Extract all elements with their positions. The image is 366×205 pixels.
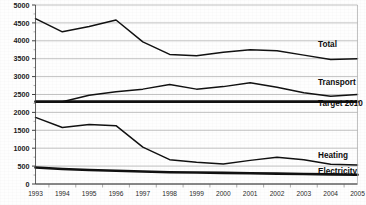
xtick-label-1998: 1998 (162, 190, 177, 197)
xtick-marks-group (49, 184, 344, 188)
xtick-label-2004: 2004 (323, 190, 338, 197)
xtick-label-2003: 2003 (296, 190, 311, 197)
xtick-label-2002: 2002 (270, 190, 285, 197)
xtick-labels-group: 1993199419951996199719981999200020012002… (28, 190, 365, 197)
xtick-label-2005: 2005 (350, 190, 365, 197)
xtick-label-1996: 1996 (109, 190, 124, 197)
ytick-label-500: 500 (18, 162, 30, 171)
chart-container: 5000450040003500300025002000150010005000… (0, 0, 366, 205)
series-label-transport: Transport (318, 78, 356, 87)
xtick-label-1999: 1999 (189, 190, 204, 197)
series-line-total (36, 19, 358, 60)
series-line-electricity (36, 168, 358, 175)
series-label-target-2010: Target 2010 (318, 99, 363, 108)
ytick-label-1000: 1000 (14, 144, 30, 153)
xtick-label-2001: 2001 (243, 190, 258, 197)
line-chart-plot: 5000450040003500300025002000150010005000… (0, 0, 366, 205)
series-label-total: Total (318, 40, 337, 49)
ytick-label-0: 0 (26, 180, 30, 189)
ytick-label-3500: 3500 (14, 54, 30, 63)
ytick-label-4000: 4000 (14, 36, 30, 45)
xtick-label-1993: 1993 (28, 190, 43, 197)
ytick-label-3000: 3000 (14, 72, 30, 81)
xtick-label-1997: 1997 (135, 190, 150, 197)
series-label-electricity: Electricity (318, 167, 358, 176)
series-line-heating (36, 117, 358, 165)
gridlines-group (36, 5, 358, 184)
series-labels-group: TotalTransportTarget 2010HeatingElectric… (318, 40, 363, 175)
ytick-label-1500: 1500 (14, 126, 30, 135)
xtick-label-1995: 1995 (82, 190, 97, 197)
ytick-marks-group (32, 5, 36, 184)
series-label-heating: Heating (318, 151, 348, 160)
ytick-label-4500: 4500 (14, 19, 30, 28)
xtick-label-2000: 2000 (216, 190, 231, 197)
ytick-labels-group: 5000450040003500300025002000150010005000 (14, 1, 30, 189)
series-line-transport (36, 83, 358, 102)
ytick-label-2000: 2000 (14, 108, 30, 117)
xtick-label-1994: 1994 (55, 190, 70, 197)
series-lines-group (36, 19, 358, 175)
ytick-label-5000: 5000 (14, 1, 30, 10)
ytick-label-2500: 2500 (14, 90, 30, 99)
